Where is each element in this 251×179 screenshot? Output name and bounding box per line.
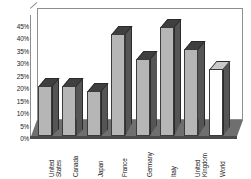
bar-side-face <box>76 78 83 136</box>
y-axis-tick-label: 15% <box>0 97 29 104</box>
bar-front-face <box>87 91 101 136</box>
bar-column <box>184 49 198 136</box>
y-axis-tick-label: 30% <box>0 60 29 67</box>
bar-front-face <box>38 86 52 136</box>
bar-column <box>160 27 174 137</box>
y-axis-tick-label: 35% <box>0 47 29 54</box>
y-axis-tick-label: 45% <box>0 23 29 30</box>
bar-column <box>111 34 125 136</box>
y-axis-tick-label: 5% <box>0 122 29 129</box>
bar-side-face <box>198 41 205 136</box>
bar-column <box>136 59 150 136</box>
bar-chart-figure: 0%5%10%15%20%25%30%35%40%45% United Stat… <box>0 0 251 179</box>
bar-column <box>87 91 101 136</box>
x-axis: United StatesCanadaJapanFranceGermanyIta… <box>30 136 244 179</box>
bar-side-face <box>150 51 157 136</box>
bar-side-face <box>174 19 181 137</box>
bar-front-face <box>62 86 76 136</box>
bar-side-face <box>52 78 59 136</box>
bar-column <box>62 86 76 136</box>
bar-side-face <box>125 26 132 136</box>
y-axis-tick-label: 20% <box>0 85 29 92</box>
bar-front-face <box>136 59 150 136</box>
bar-side-face <box>101 83 108 136</box>
bar-front-face <box>160 27 174 137</box>
x-axis-tick-label: Japan <box>97 137 104 177</box>
x-axis-tick-label: Italy <box>170 137 177 177</box>
x-axis-tick-label: United States <box>48 137 62 177</box>
y-axis-tick-label: 0% <box>0 135 29 142</box>
bar-front-face <box>111 34 125 136</box>
x-axis-tick-label: Canada <box>72 137 79 177</box>
y-axis: 0%5%10%15%20%25%30%35%40%45% <box>0 0 30 179</box>
y-axis-tick-label: 40% <box>0 35 29 42</box>
y-axis-tick-label: 25% <box>0 72 29 79</box>
x-axis-tick-label: Germany <box>146 137 153 177</box>
x-axis-tick-label: France <box>121 137 128 177</box>
bar-side-face <box>223 61 230 136</box>
bar-front-face <box>209 69 223 136</box>
bar-column <box>38 86 52 136</box>
x-axis-tick-label: United Kingdom <box>194 137 208 177</box>
bar-column <box>209 69 223 136</box>
bar-series <box>30 8 244 139</box>
y-axis-tick-label: 10% <box>0 110 29 117</box>
x-axis-tick-label: World <box>219 137 226 177</box>
bar-front-face <box>184 49 198 136</box>
